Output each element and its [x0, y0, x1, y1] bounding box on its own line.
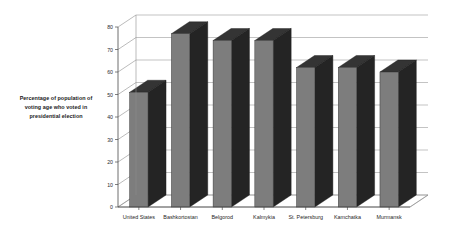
x-axis-category-label: Murmansk: [377, 214, 402, 220]
x-axis-category-label: United States: [123, 214, 156, 220]
y-axis-tick-label: 80: [107, 24, 113, 30]
y-axis-tick-label: 50: [107, 92, 113, 98]
y-axis-tick-label: 10: [107, 182, 113, 188]
bar-column: [213, 29, 249, 208]
gridline-depth: [118, 38, 136, 50]
bar-front-face: [171, 34, 189, 207]
bar-chart-figure: Percentage of population of voting age w…: [0, 0, 450, 235]
plot-area: 01020304050607080United StatesBashkortos…: [0, 0, 450, 235]
x-axis-category-label: Belgorod: [211, 214, 233, 220]
y-axis-tick-label: 60: [107, 69, 113, 75]
x-axis-category-label: Kamchatka: [334, 214, 361, 220]
bar-front-face: [213, 41, 231, 208]
x-axis-category-label: St. Petersburg: [288, 214, 322, 220]
y-axis-tick-label: 0: [110, 204, 113, 210]
bar-side-face: [273, 29, 291, 208]
bar-column: [255, 29, 291, 208]
x-axis-category-label: Bashkortostan: [163, 214, 197, 220]
y-axis-tick-label: 30: [107, 137, 113, 143]
bar-column: [380, 60, 416, 207]
bar-side-face: [148, 80, 166, 207]
y-axis-tick-label: 20: [107, 159, 113, 165]
gridline-depth: [118, 60, 136, 72]
bar-side-face: [398, 60, 416, 207]
bar-front-face: [255, 41, 273, 208]
bar-front-face: [130, 92, 148, 207]
y-axis-tick-label: 40: [107, 114, 113, 120]
bar-side-face: [190, 22, 208, 207]
bar-side-face: [231, 29, 249, 208]
gridline-depth: [118, 15, 136, 27]
bar-column: [338, 56, 374, 208]
bar-column: [297, 56, 333, 208]
bar-side-face: [315, 56, 333, 208]
bar-side-face: [357, 56, 375, 208]
y-axis-tick-label: 70: [107, 47, 113, 53]
bar-front-face: [380, 72, 398, 207]
bar-front-face: [338, 68, 356, 208]
bar-column: [171, 22, 207, 207]
bar-front-face: [297, 68, 315, 208]
bar-column: [130, 80, 166, 207]
x-axis-category-label: Kalmykia: [253, 214, 275, 220]
